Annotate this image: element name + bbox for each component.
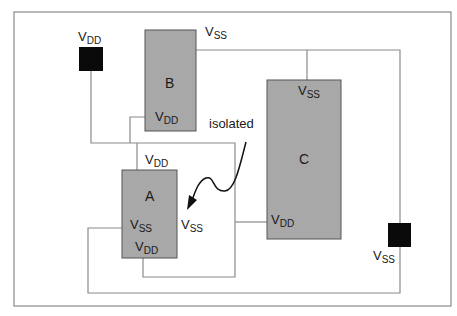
vss-pad [388, 223, 411, 247]
isolated-arrow-icon [187, 142, 246, 210]
block-a-vss-pin: VSS [130, 218, 152, 234]
block-a-name: A [145, 188, 154, 204]
vdd-pad [79, 47, 103, 71]
block-c-vdd-pin: VDD [271, 213, 294, 229]
block-c-vss-pin: VSS [298, 84, 320, 100]
block-b-name: B [165, 75, 174, 91]
block-c-name: C [299, 151, 309, 167]
vss-pad-label: VSS [373, 249, 395, 265]
block-a-vss-right-label: VSS [181, 218, 203, 234]
block-a-vdd-top-label: VDD [145, 153, 168, 169]
block-a-vdd-pin: VDD [135, 240, 158, 256]
block-b-vdd-pin: VDD [155, 110, 178, 126]
block-b-vss-label: VSS [205, 25, 227, 41]
diagram-canvas [0, 0, 457, 316]
isolated-annotation: isolated [209, 117, 254, 130]
vdd-pad-label: VDD [78, 30, 101, 46]
